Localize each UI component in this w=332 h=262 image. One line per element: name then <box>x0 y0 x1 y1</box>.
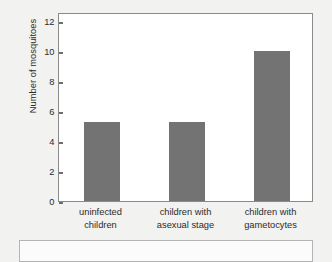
x-axis-category-label-line: gametocytes <box>228 219 313 232</box>
plot-inner: 024681012 <box>59 14 312 201</box>
y-axis-tick-label: 12 <box>44 17 54 27</box>
y-axis-tick-mark <box>59 52 63 53</box>
y-axis-tick-label: 10 <box>44 47 54 57</box>
y-axis-tick-label: 0 <box>49 197 54 207</box>
x-axis-category-label-line: children <box>58 219 143 232</box>
y-axis-tick-mark <box>59 172 63 173</box>
y-axis-tick-label: 4 <box>49 137 54 147</box>
x-axis-category-label-line: asexual stage <box>143 219 228 232</box>
y-axis-tick-label: 8 <box>49 77 54 87</box>
x-axis-category-label-line: uninfected <box>58 206 143 219</box>
bar <box>169 122 205 202</box>
y-axis-tick-mark <box>59 202 63 203</box>
y-axis-tick-mark <box>59 142 63 143</box>
bar <box>254 51 290 201</box>
x-axis-category-label: children withasexual stage <box>143 206 228 231</box>
x-axis-category-label: uninfectedchildren <box>58 206 143 231</box>
bar <box>84 122 120 202</box>
y-axis-tick-mark <box>59 112 63 113</box>
x-axis-category-label-line: children with <box>228 206 313 219</box>
caption-box <box>19 240 313 262</box>
y-axis-tick-mark <box>59 22 63 23</box>
x-axis-category-label: children withgametocytes <box>228 206 313 231</box>
y-axis-title: Number of mosquitoes <box>28 0 38 161</box>
y-axis-tick-label: 6 <box>49 107 54 117</box>
x-axis-category-label-line: children with <box>143 206 228 219</box>
plot-area: 024681012 <box>58 13 313 202</box>
x-axis-category-labels: uninfectedchildrenchildren withasexual s… <box>58 206 313 238</box>
y-axis-tick-label: 2 <box>49 167 54 177</box>
y-axis-tick-mark <box>59 82 63 83</box>
